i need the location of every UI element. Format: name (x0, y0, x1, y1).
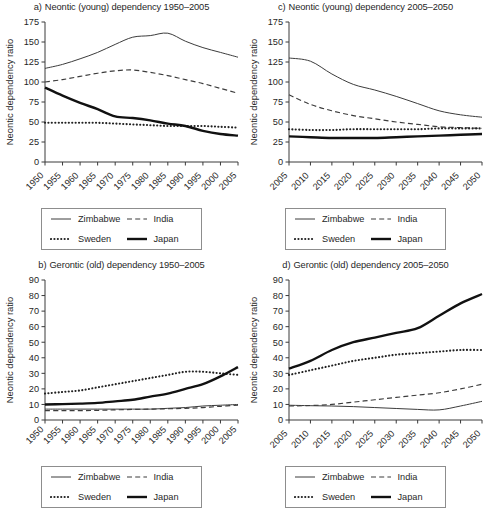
y-tick-label: 50 (29, 117, 39, 127)
panel-d-title: d)Gerontic (old) dependency 2005–2050 (244, 260, 487, 270)
legend-label-zimbabwe: Zimbabwe (78, 472, 120, 482)
y-tick-label: 100 (24, 77, 39, 87)
x-tick-label: 1970 (94, 424, 116, 446)
legend-item-sweden: Sweden (288, 234, 366, 244)
legend-label-sweden: Sweden (78, 492, 111, 502)
series-line-zimbabwe (45, 33, 238, 68)
legend-label-sweden: Sweden (322, 234, 355, 244)
y-tick-label: 10 (29, 400, 39, 410)
x-tick-label: 1970 (94, 170, 116, 192)
series-line-japan (45, 88, 238, 136)
x-tick-label: 2015 (311, 170, 333, 192)
legend-swatch-zimbabwe-icon (50, 214, 72, 224)
x-tick-label: 2005 (268, 428, 290, 450)
series-line-sweden (289, 350, 482, 375)
x-tick-label: 2040 (418, 428, 440, 450)
legend-item-japan: Japan (366, 234, 444, 244)
y-tick-label: 0 (34, 157, 39, 167)
legend-item-india: India (122, 214, 200, 224)
legend-swatch-zimbabwe-icon (294, 214, 316, 224)
y-tick-label: 60 (273, 322, 283, 332)
legend-swatch-india-icon (370, 214, 392, 224)
y-tick-label: 50 (273, 338, 283, 348)
y-axis-label: Neontic dependency ratio (4, 297, 15, 403)
x-tick-label: 1955 (41, 424, 63, 446)
x-tick-label: 2005 (268, 170, 290, 192)
y-tick-label: 90 (273, 275, 283, 285)
x-tick-label: 1965 (77, 170, 99, 192)
x-tick-label: 2035 (397, 428, 419, 450)
legend-swatch-sweden-icon (50, 492, 72, 502)
y-tick-label: 80 (29, 291, 39, 301)
x-tick-label: 2045 (439, 428, 461, 450)
x-tick-label: 1960 (59, 170, 81, 192)
legend-swatch-sweden-icon (294, 492, 316, 502)
panel-c-title-text: Neontic (young) dependency 2005–2050 (289, 2, 453, 12)
x-tick-label: 1990 (164, 424, 186, 446)
y-tick-label: 175 (268, 17, 283, 27)
y-tick-label: 30 (273, 369, 283, 379)
y-tick-label: 125 (268, 57, 283, 67)
x-tick-label: 2050 (461, 428, 483, 450)
x-tick-label: 2040 (418, 170, 440, 192)
y-tick-label: 70 (29, 306, 39, 316)
x-tick-label: 1950 (24, 170, 46, 192)
y-tick-label: 50 (273, 117, 283, 127)
panel-d-legend: ZimbabweIndiaSwedenJapan (285, 466, 446, 508)
legend-label-zimbabwe: Zimbabwe (322, 214, 364, 224)
series-line-india (289, 384, 482, 406)
legend-swatch-india-icon (126, 214, 148, 224)
legend-label-india: India (154, 472, 174, 482)
panel-b: b)Gerontic (old) dependency 1950–2005 01… (0, 258, 243, 515)
legend-label-india: India (398, 214, 418, 224)
series-line-japan (289, 294, 482, 369)
legend-label-india: India (154, 214, 174, 224)
figure-dependency-ratios: a)Neontic (young) dependency 1950–2005 0… (0, 0, 487, 515)
y-tick-label: 150 (268, 37, 283, 47)
legend-item-japan: Japan (122, 234, 200, 244)
panel-c-tag: c) (278, 2, 286, 12)
y-tick-label: 0 (278, 415, 283, 425)
y-tick-label: 0 (34, 415, 39, 425)
y-tick-label: 70 (273, 306, 283, 316)
y-tick-label: 10 (273, 400, 283, 410)
legend-swatch-india-icon (126, 472, 148, 482)
x-tick-label: 2020 (332, 170, 354, 192)
legend-swatch-japan-icon (370, 492, 392, 502)
panel-c-title: c)Neontic (young) dependency 2005–2050 (244, 2, 487, 12)
y-axis-label: Neontic dependency ratio (248, 39, 259, 145)
legend-label-zimbabwe: Zimbabwe (78, 214, 120, 224)
x-tick-label: 2025 (354, 428, 376, 450)
legend-swatch-japan-icon (126, 492, 148, 502)
y-tick-label: 25 (273, 137, 283, 147)
x-tick-label: 2005 (217, 424, 239, 446)
panel-a-legend: ZimbabweIndiaSwedenJapan (41, 208, 202, 250)
y-tick-label: 40 (29, 353, 39, 363)
y-tick-label: 30 (29, 369, 39, 379)
x-tick-label: 1995 (182, 424, 204, 446)
y-tick-label: 125 (24, 57, 39, 67)
x-tick-label: 1980 (129, 424, 151, 446)
y-axis-label: Neontic dependency ratio (248, 297, 259, 403)
x-tick-label: 1975 (112, 424, 134, 446)
y-tick-label: 50 (29, 338, 39, 348)
legend-item-sweden: Sweden (44, 234, 122, 244)
legend-item-zimbabwe: Zimbabwe (288, 472, 366, 482)
x-tick-label: 2020 (332, 428, 354, 450)
series-line-japan (289, 134, 482, 138)
panel-b-plot: 0102030405060708090195019551960196519701… (0, 272, 243, 466)
y-axis-label: Neontic dependency ratio (4, 39, 15, 145)
panel-c: c)Neontic (young) dependency 2005–2050 0… (244, 0, 487, 257)
x-tick-label: 2025 (354, 170, 376, 192)
legend-label-japan: Japan (398, 234, 423, 244)
y-tick-label: 25 (29, 137, 39, 147)
panel-d-tag: d) (282, 260, 290, 270)
panel-b-legend: ZimbabweIndiaSwedenJapan (41, 466, 202, 508)
legend-swatch-india-icon (370, 472, 392, 482)
legend-item-japan: Japan (366, 492, 444, 502)
panel-c-legend: ZimbabweIndiaSwedenJapan (285, 208, 446, 250)
legend-label-sweden: Sweden (322, 492, 355, 502)
x-tick-label: 1950 (24, 424, 46, 446)
series-line-india (289, 95, 482, 129)
x-tick-label: 2005 (217, 170, 239, 192)
